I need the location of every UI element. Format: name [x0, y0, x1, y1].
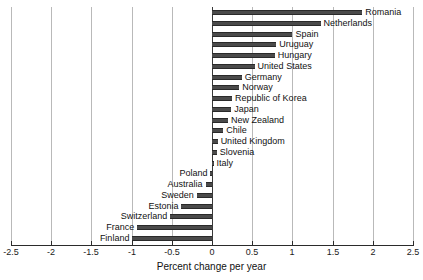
x-tick-label: 2.5 [393, 247, 423, 258]
bar-row: France [0, 222, 423, 233]
x-tick-label: -0.5 [152, 247, 192, 258]
bar-chart: RomaniaNetherlandsSpainUruguayHungaryUni… [0, 0, 423, 280]
bar [212, 75, 242, 80]
bar [170, 214, 212, 219]
bar [212, 139, 218, 144]
bar-label: Hungary [278, 50, 312, 61]
bar-label: France [106, 222, 134, 233]
bar-row: Romania [0, 7, 423, 18]
bar [181, 204, 212, 209]
bar-row: Germany [0, 72, 423, 83]
x-tick-label: -2.5 [0, 247, 31, 258]
bar-row: Spain [0, 29, 423, 40]
x-axis-title: Percent change per year [0, 261, 423, 273]
bar-label: Japan [234, 104, 259, 115]
bar [212, 96, 232, 101]
bar-row: Republic of Korea [0, 93, 423, 104]
bar-row: Switzerland [0, 211, 423, 222]
bar [212, 107, 231, 112]
bar [212, 10, 362, 15]
bar-row: Italy [0, 158, 423, 169]
bar [137, 225, 212, 230]
bar-row: Australia [0, 179, 423, 190]
bar-label: Republic of Korea [235, 93, 307, 104]
bar-row: Netherlands [0, 18, 423, 29]
bar-row: Slovenia [0, 147, 423, 158]
bar-label: Chile [226, 125, 247, 136]
bar-row: New Zealand [0, 115, 423, 126]
bar-label: Norway [242, 82, 273, 93]
bar-label: United Kingdom [221, 136, 285, 147]
bar [212, 118, 228, 123]
bar-row: Estonia [0, 201, 423, 212]
bar [212, 42, 276, 47]
bar-row: Norway [0, 82, 423, 93]
bar-row: Chile [0, 125, 423, 136]
bar [197, 193, 212, 198]
bar-label: Romania [365, 7, 401, 18]
bar [212, 53, 275, 58]
bar-label: Italy [217, 158, 234, 169]
bar-label: Australia [168, 179, 203, 190]
x-tick-label: 0 [192, 247, 232, 258]
bar-row: United Kingdom [0, 136, 423, 147]
bar-label: Netherlands [324, 18, 373, 29]
bar [132, 236, 212, 241]
bar-label: Estonia [148, 201, 178, 212]
bar-label: Sweden [161, 190, 194, 201]
bar-label: New Zealand [231, 115, 284, 126]
bar-row: Poland [0, 168, 423, 179]
bar-row: United States [0, 61, 423, 72]
bar [206, 182, 212, 187]
plot-area: RomaniaNetherlandsSpainUruguayHungaryUni… [0, 0, 423, 248]
bar-label: Germany [245, 72, 282, 83]
bar [212, 150, 217, 155]
bar-label: Uruguay [279, 39, 313, 50]
bar-row: Uruguay [0, 39, 423, 50]
bar-label: Poland [179, 168, 207, 179]
x-tick-label: 2 [353, 247, 393, 258]
bar-row: Hungary [0, 50, 423, 61]
bar [210, 171, 212, 176]
bar [212, 21, 321, 26]
bar [212, 85, 239, 90]
bar-row: Japan [0, 104, 423, 115]
x-tick-label: 1.5 [313, 247, 353, 258]
bar-row: Sweden [0, 190, 423, 201]
bar [212, 32, 292, 37]
bar [212, 64, 255, 69]
x-tick-label: 1 [272, 247, 312, 258]
bar-label: Slovenia [220, 147, 255, 158]
x-tick-label: -2 [31, 247, 71, 258]
x-axis-line [11, 245, 413, 246]
x-tick-label: -1.5 [71, 247, 111, 258]
bar-label: United States [258, 61, 312, 72]
bar-label: Spain [295, 29, 318, 40]
bar [212, 128, 223, 133]
bar [212, 161, 214, 166]
bar-label: Finland [100, 233, 130, 244]
x-tick-label: 0.5 [232, 247, 272, 258]
x-tick-label: -1 [112, 247, 152, 258]
bar-label: Switzerland [121, 211, 168, 222]
x-tick-mark [413, 241, 414, 246]
